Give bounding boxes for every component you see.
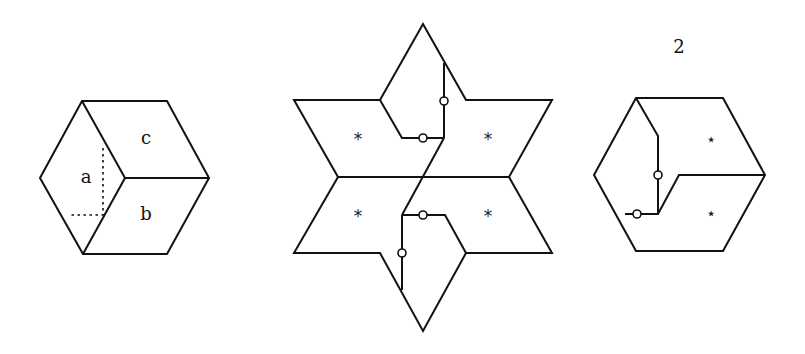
node-circle xyxy=(419,211,427,219)
lower-path-right xyxy=(402,215,466,253)
asterisk-mark-lower-right: * xyxy=(484,206,493,226)
rhombus-edge-bottom xyxy=(83,178,125,254)
diagram-canvas: a b c * * * * 2 ⋆ ⋆ xyxy=(0,0,805,354)
asterisk-mark-lower-left: * xyxy=(354,206,363,226)
label-b: b xyxy=(140,203,152,224)
label-a: a xyxy=(81,166,92,187)
node-circle xyxy=(419,134,427,142)
internal-path-upper xyxy=(636,98,658,214)
star-mark-upper: ⋆ xyxy=(706,129,717,149)
upper-path-left xyxy=(380,100,444,138)
asterisk-mark-upper-right: * xyxy=(484,129,493,149)
node-circle xyxy=(654,171,662,179)
internal-path-step xyxy=(625,175,765,214)
star-mark-lower: ⋆ xyxy=(706,203,717,223)
right-hexagon: 2 ⋆ ⋆ xyxy=(594,36,765,251)
node-circle xyxy=(440,97,448,105)
asterisk-mark-upper-left: * xyxy=(354,129,363,149)
middle-star: * * * * xyxy=(294,24,552,331)
node-circle xyxy=(398,249,406,257)
left-hexagon: a b c xyxy=(40,101,209,254)
hexagon-title: 2 xyxy=(673,36,684,57)
node-circle xyxy=(633,210,641,218)
label-c: c xyxy=(141,127,151,148)
